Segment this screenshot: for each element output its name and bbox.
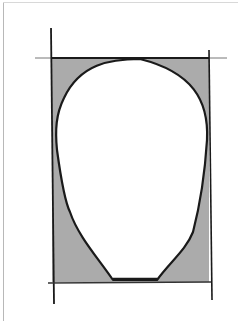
guide-line-bottom	[48, 282, 211, 283]
guide-line-right	[209, 50, 212, 300]
face-shape-diagram	[0, 0, 238, 321]
